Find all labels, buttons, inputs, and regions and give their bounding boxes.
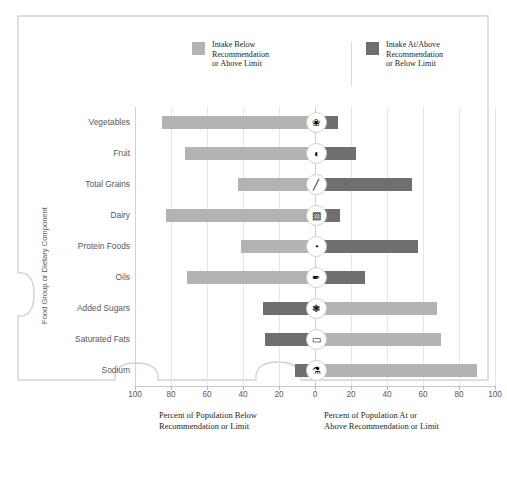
vegetables-icon: ❀ [306,112,327,133]
bar-left[interactable] [238,178,315,191]
chart-row: ⚗ [135,355,495,386]
chart-frame: Intake Below Recommendation or Above Lim… [16,14,490,414]
plot-area: ❀◖╱▧◔✒❃▭⚗ [135,107,495,386]
category-label: Protein Foods [78,241,130,251]
legend-divider [351,42,352,86]
chart-row: ❃ [135,293,495,324]
legend-label-below: Intake Below Recommendation or Above Lim… [212,40,269,69]
chart-row: ◔ [135,231,495,262]
added-sugars-icon: ❃ [306,298,327,319]
x-axis-caption-left: Percent of Population Below Recommendati… [159,410,257,431]
x-axis-tick-label: 40 [382,390,391,399]
dairy-icon: ▧ [306,205,327,226]
chart-row: ❀ [135,107,495,138]
chart-row: ◖ [135,138,495,169]
chart-row: ✒ [135,262,495,293]
chart-legend: Intake Below Recommendation or Above Lim… [186,40,496,88]
bar-left[interactable] [166,209,315,222]
fruit-icon: ◖ [306,143,327,164]
oils-icon: ✒ [306,267,327,288]
bar-right[interactable] [315,240,418,253]
sodium-icon: ⚗ [306,360,327,381]
x-axis-tick-label: 0 [313,390,318,399]
y-axis-tick-labels: VegetablesFruitTotal GrainsDairyProtein … [36,107,130,386]
x-axis-tick-label: 100 [128,390,142,399]
x-axis-tick-label: 60 [202,390,211,399]
category-label: Saturated Fats [75,334,130,344]
legend-swatch-above [366,42,379,55]
bar-right[interactable] [315,333,441,346]
chart-row: ▧ [135,200,495,231]
legend-item-below[interactable]: Intake Below Recommendation or Above Lim… [192,40,269,69]
x-axis-tick-label: 20 [274,390,283,399]
legend-swatch-below [192,42,205,55]
x-axis-tick-label: 80 [166,390,175,399]
bar-left[interactable] [162,116,315,129]
legend-label-above: Intake At/Above Recommendation or Below … [386,40,443,69]
category-label: Dairy [110,210,130,220]
bar-right[interactable] [315,302,437,315]
legend-item-above[interactable]: Intake At/Above Recommendation or Below … [366,40,443,69]
saturated-fats-icon: ▭ [306,329,327,350]
x-axis-tick-label: 80 [454,390,463,399]
category-label: Added Sugars [77,303,130,313]
x-axis-caption-right: Percent of Population At or Above Recomm… [324,410,439,431]
bar-left[interactable] [241,240,315,253]
y-axis-line [135,107,136,386]
x-axis-tick-label: 60 [418,390,427,399]
category-label: Total Grains [85,179,130,189]
bar-right[interactable] [315,178,412,191]
chart-row: ╱ [135,169,495,200]
protein-icon: ◔ [306,236,327,257]
bar-left[interactable] [185,147,315,160]
bar-right[interactable] [315,364,477,377]
category-label: Fruit [113,148,130,158]
chart-row: ▭ [135,324,495,355]
category-label: Vegetables [89,117,130,127]
x-axis-tick-label: 40 [238,390,247,399]
category-label: Oils [116,272,130,282]
grains-icon: ╱ [306,174,327,195]
x-axis-tick-label: 20 [346,390,355,399]
category-label: Sodium [102,365,130,375]
gridline [495,107,496,386]
x-axis-tick-label: 100 [488,390,502,399]
bar-left[interactable] [187,271,315,284]
